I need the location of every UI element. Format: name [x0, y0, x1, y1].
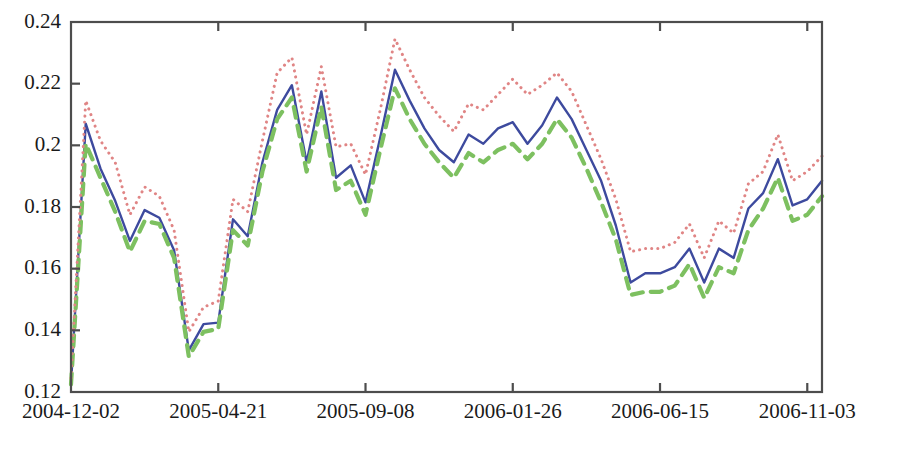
x-tick-label: 2004-12-02	[22, 399, 120, 423]
x-tick-label: 2006-01-26	[464, 399, 562, 423]
x-tick-label: 2006-11-03	[759, 399, 856, 423]
y-tick-label: 0.22	[24, 70, 61, 94]
x-tick-label: 2005-09-08	[317, 399, 415, 423]
x-tick-label: 2006-06-15	[611, 399, 709, 423]
y-tick-label: 0.2	[35, 132, 61, 156]
y-tick-label: 0.14	[24, 317, 61, 341]
figure-container: 0.240.220.20.180.160.140.122004-12-02200…	[0, 0, 901, 455]
x-tick-label: 2005-04-21	[169, 399, 267, 423]
y-tick-label: 0.18	[24, 194, 61, 218]
line-chart: 0.240.220.20.180.160.140.122004-12-02200…	[0, 0, 901, 455]
y-tick-label: 0.24	[24, 9, 61, 33]
plot-background	[71, 22, 822, 392]
y-tick-label: 0.16	[24, 255, 61, 279]
